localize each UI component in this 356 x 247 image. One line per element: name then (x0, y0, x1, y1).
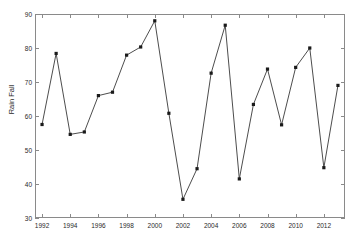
data-point (252, 103, 255, 106)
data-point (266, 67, 269, 70)
x-tick-label: 1998 (112, 222, 142, 229)
data-point (125, 54, 128, 57)
x-tick-label: 1992 (27, 222, 57, 229)
data-point (83, 130, 86, 133)
x-tick-label: 2010 (281, 222, 311, 229)
x-tick-label: 1994 (55, 222, 85, 229)
data-point (280, 123, 283, 126)
x-tick-label: 2012 (309, 222, 339, 229)
data-point (195, 167, 198, 170)
data-point (55, 52, 58, 55)
x-tick-label: 2008 (253, 222, 283, 229)
series-markers (40, 19, 339, 201)
data-point (238, 177, 241, 180)
data-point (308, 46, 311, 49)
rainfall-series (35, 14, 345, 218)
data-point (224, 24, 227, 27)
x-tick-label: 2004 (196, 222, 226, 229)
data-point (111, 91, 114, 94)
data-point (322, 166, 325, 169)
series-line (42, 21, 338, 200)
x-tick-label: 2002 (168, 222, 198, 229)
x-tick-label: 2000 (140, 222, 170, 229)
data-point (69, 133, 72, 136)
data-point (97, 94, 100, 97)
x-tick-label: 2006 (224, 222, 254, 229)
data-point (210, 72, 213, 75)
data-point (336, 84, 339, 87)
data-point (139, 45, 142, 48)
figure-canvas: 30405060708090 1992199419961998200020022… (0, 0, 356, 247)
data-point (294, 66, 297, 69)
y-axis-label: Rain Fall (7, 70, 16, 130)
data-point (167, 112, 170, 115)
data-point (40, 123, 43, 126)
x-tick-label: 1996 (83, 222, 113, 229)
data-point (181, 198, 184, 201)
data-point (153, 19, 156, 22)
